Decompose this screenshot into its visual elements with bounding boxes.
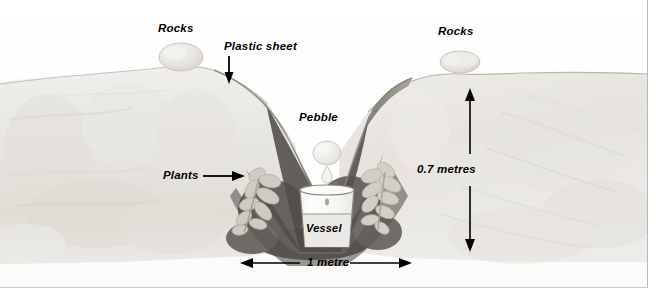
figure-border (0, 0, 648, 288)
diagram-canvas: Rocks Rocks Plastic sheet Pebble Plants … (0, 0, 665, 304)
